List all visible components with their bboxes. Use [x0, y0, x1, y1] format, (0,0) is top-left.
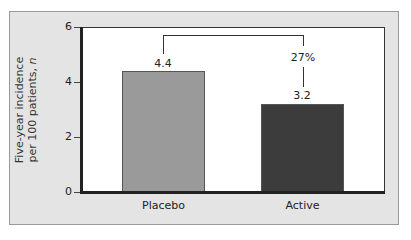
x-category-placebo: Placebo: [122, 199, 205, 212]
bar-placebo: [122, 71, 205, 192]
reduction-label: 27%: [283, 51, 323, 64]
bar-active: [261, 104, 344, 192]
y-tick-label-2: 2: [60, 131, 72, 143]
y-axis-label-line-2-text: per 100 patients, n: [26, 57, 39, 162]
bracket-right-leg-upper: [303, 35, 304, 46]
y-axis-label-line-1: Five-year incidence: [13, 30, 26, 190]
y-tick-label-4: 4: [60, 76, 72, 88]
bracket-left-leg: [163, 35, 164, 54]
x-axis: [80, 191, 385, 194]
y-axis-label-line-2: per 100 patients, n: [26, 30, 39, 190]
bar-value-placebo: 4.4: [143, 57, 183, 70]
y-tick-label-0: 0: [60, 186, 72, 198]
y-axis: [80, 27, 83, 193]
y-axis-label: Five-year incidence per 100 patients, n: [13, 30, 39, 190]
y-tick-label-6: 6: [60, 21, 72, 33]
bracket-right-leg-lower: [303, 67, 304, 87]
bar-value-active: 3.2: [282, 89, 322, 102]
bracket-top: [163, 35, 303, 36]
y-axis-label-italic-n: n: [26, 57, 39, 64]
x-category-active: Active: [261, 199, 344, 212]
